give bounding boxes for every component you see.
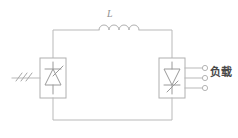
wire-top-left bbox=[53, 30, 99, 58]
ac-source bbox=[12, 73, 40, 81]
circuit-diagram: L 负载 bbox=[0, 0, 238, 138]
load-terminal-2 bbox=[185, 75, 208, 80]
load-label: 负载 bbox=[210, 67, 232, 78]
wire-top-right bbox=[139, 30, 172, 58]
three-phase-hatch-icon bbox=[16, 73, 32, 81]
load-terminal-3 bbox=[185, 85, 208, 90]
inductor-label: L bbox=[107, 9, 113, 19]
circuit-canvas bbox=[0, 0, 238, 138]
dc-link-inductor bbox=[99, 25, 139, 30]
load-terminals bbox=[185, 65, 208, 90]
rectifier-block bbox=[40, 58, 66, 98]
load-terminal-1 bbox=[185, 65, 208, 70]
inverter-block bbox=[159, 58, 185, 98]
wire-bottom-rail bbox=[53, 98, 172, 120]
